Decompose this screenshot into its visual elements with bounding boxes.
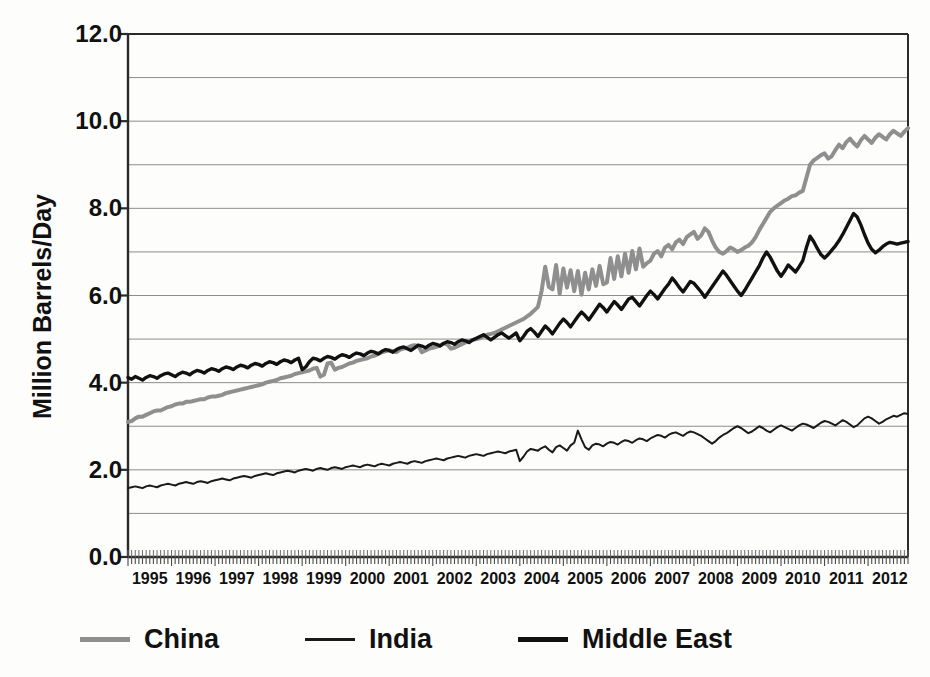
series-line-china	[128, 128, 908, 422]
x-axis-tick-label: 1999	[306, 570, 342, 588]
y-axis-tick-label: 4.0	[36, 369, 122, 397]
legend-item-india[interactable]: India	[305, 624, 432, 655]
x-axis-tick-label: 2003	[480, 570, 516, 588]
x-axis-tick-label: 2005	[567, 570, 603, 588]
x-axis-tick-label: 2004	[524, 570, 560, 588]
chart-legend: ChinaIndiaMiddle East	[0, 614, 930, 664]
legend-line-icon	[80, 637, 130, 642]
legend-label: India	[369, 624, 432, 655]
legend-label: Middle East	[582, 624, 732, 655]
y-axis-tick-label: 0.0	[36, 543, 122, 571]
legend-item-middle-east[interactable]: Middle East	[518, 624, 732, 655]
series-line-india	[128, 413, 908, 488]
series-line-middle-east	[128, 214, 908, 380]
y-axis-tick-label: 8.0	[36, 194, 122, 222]
legend-item-china[interactable]: China	[80, 624, 219, 655]
x-axis-tick-label: 1996	[176, 570, 212, 588]
legend-label: China	[144, 624, 219, 655]
legend-line-icon	[518, 637, 568, 642]
x-axis-tick-label: 2010	[785, 570, 821, 588]
x-axis-tick-label: 1998	[263, 570, 299, 588]
y-axis-tick-label: 10.0	[36, 107, 122, 135]
x-axis-tick-label: 2009	[741, 570, 777, 588]
x-axis-tick-label: 2011	[829, 570, 864, 588]
x-axis-tick-label: 2008	[698, 570, 734, 588]
x-axis-tick-label: 2000	[350, 570, 386, 588]
y-axis-tick-label: 12.0	[36, 20, 122, 48]
x-axis-tick-label: 2006	[611, 570, 647, 588]
legend-line-icon	[305, 638, 355, 641]
x-axis-tick-label: 2007	[654, 570, 690, 588]
y-axis-tick-labels: 12.010.08.06.04.02.00.0	[28, 0, 122, 677]
x-axis-tick-label: 2001	[393, 570, 429, 588]
x-axis-tick-label: 1995	[132, 570, 168, 588]
x-axis-tick-label: 2002	[437, 570, 473, 588]
y-axis-tick-label: 6.0	[36, 282, 122, 310]
oil-consumption-line-chart: Million Barrels/Day 12.010.08.06.04.02.0…	[0, 0, 930, 677]
y-axis-tick-label: 2.0	[36, 456, 122, 484]
x-axis-tick-label: 2012	[872, 570, 908, 588]
x-axis-tick-label: 1997	[219, 570, 255, 588]
